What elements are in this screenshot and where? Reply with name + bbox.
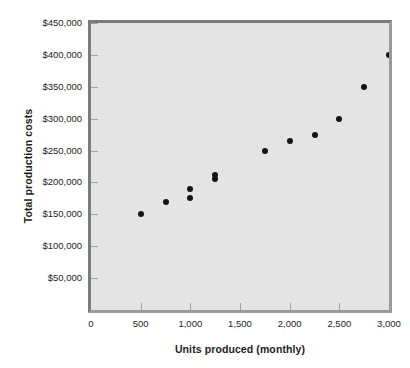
x-axis-tick: [141, 303, 142, 310]
x-axis-title: Units produced (monthly): [88, 343, 392, 355]
data-point: [336, 116, 342, 122]
y-axis-tick: [91, 87, 98, 88]
x-axis-tick: [190, 303, 191, 310]
y-axis-tick: [91, 23, 98, 24]
y-axis-tick: [91, 151, 98, 152]
y-axis-tick: [91, 119, 98, 120]
x-axis-tick: [290, 303, 291, 310]
y-axis-tick-label: $250,000: [2, 145, 82, 156]
scatter-chart: Total production costs Units produced (m…: [0, 0, 410, 368]
y-axis-tick-label: $150,000: [2, 208, 82, 219]
y-axis-tick: [91, 182, 98, 183]
data-point: [361, 84, 367, 90]
x-axis-tick: [240, 303, 241, 310]
data-point: [187, 186, 193, 192]
y-axis-tick-label: $350,000: [2, 81, 82, 92]
y-axis-tick-label: $200,000: [2, 176, 82, 187]
x-axis-tick-label: 3,000: [359, 318, 410, 329]
data-point: [138, 211, 144, 217]
y-axis-tick: [91, 278, 98, 279]
data-point: [212, 172, 218, 178]
data-point: [386, 52, 389, 58]
plot-inner: [91, 23, 389, 310]
y-axis-tick-label: $450,000: [2, 17, 82, 28]
data-point: [187, 195, 193, 201]
y-axis-tick: [91, 214, 98, 215]
y-axis-tick: [91, 246, 98, 247]
data-point: [163, 199, 169, 205]
data-point: [262, 148, 268, 154]
plot-area: [88, 20, 392, 313]
data-point: [287, 138, 293, 144]
y-axis-tick-label: $50,000: [2, 272, 82, 283]
y-axis-tick: [91, 55, 98, 56]
data-point: [312, 132, 318, 138]
y-axis-tick-label: $100,000: [2, 240, 82, 251]
y-axis-tick-label: $400,000: [2, 49, 82, 60]
x-axis-tick: [339, 303, 340, 310]
y-axis-tick-label: $300,000: [2, 113, 82, 124]
